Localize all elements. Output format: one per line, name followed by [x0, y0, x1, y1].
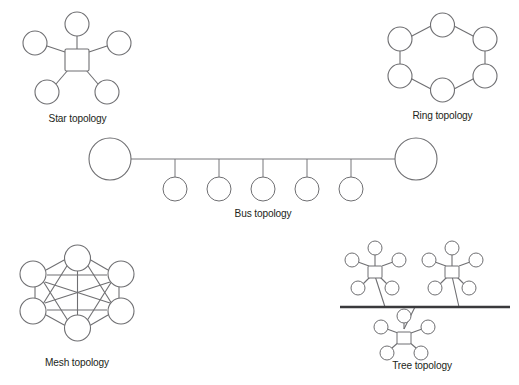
ring-node-top [431, 13, 455, 37]
bus-drop-links [175, 159, 351, 178]
tree-leaf [345, 253, 359, 267]
star-leaf-bottom-right [95, 80, 119, 104]
tree-leaf [445, 241, 459, 255]
star-leaf-bottom-left [35, 80, 59, 104]
mesh-node-top [65, 245, 91, 271]
tree-cluster-upper-right [422, 241, 483, 295]
ring-node-bottom [431, 78, 455, 102]
tree-leaf [385, 281, 399, 295]
tree-leaf [428, 281, 442, 295]
top-edge-artifact [0, 0, 120, 6]
ring-node-lower-left [388, 64, 412, 88]
bus-topology-caption: Bus topology [102, 207, 424, 219]
ring-topology-caption: Ring topology [380, 109, 504, 121]
ring-topology-diagram [375, 12, 510, 107]
bus-node [251, 177, 275, 201]
tree-topology-diagram [332, 240, 512, 355]
star-leaf-left [23, 31, 47, 55]
tree-hub [397, 332, 411, 344]
mesh-node-lower-left [20, 298, 46, 324]
mesh-node-lower-right [108, 298, 134, 324]
ring-node-lower-right [473, 64, 497, 88]
bus-terminator-right [395, 138, 437, 180]
bus-node [295, 177, 319, 201]
star-hub-node [65, 49, 89, 71]
bus-node [339, 177, 363, 201]
tree-leaf [421, 320, 435, 334]
tree-leaf [414, 346, 428, 360]
star-leaf-right [107, 31, 131, 55]
tree-leaf [392, 253, 406, 267]
tree-hub [368, 266, 382, 278]
mesh-topology-caption: Mesh topology [17, 356, 137, 368]
mesh-topology-diagram [12, 240, 142, 352]
mesh-node-bottom [65, 315, 91, 341]
tree-hub [445, 266, 459, 278]
star-leaf-top [65, 12, 89, 36]
bus-topology-diagram [88, 142, 438, 204]
tree-leaf [374, 320, 388, 334]
tree-leaf [380, 346, 394, 360]
ring-node-upper-left [388, 27, 412, 51]
tree-topology-caption: Tree topology [339, 359, 505, 371]
tree-cluster-upper-left [345, 241, 406, 295]
star-topology-caption: Star topology [15, 112, 139, 124]
tree-leaf [422, 253, 436, 267]
star-topology-diagram [10, 8, 145, 113]
ring-node-upper-right [473, 27, 497, 51]
mesh-node-upper-left [20, 261, 46, 287]
network-topology-figure: Star topology Ring topology [0, 0, 519, 385]
tree-leaf [462, 281, 476, 295]
mesh-node-upper-right [108, 261, 134, 287]
tree-cluster-lower-center [374, 309, 435, 360]
bus-terminator-left [89, 138, 131, 180]
bus-node [207, 177, 231, 201]
tree-leaf [469, 253, 483, 267]
tree-leaf [351, 281, 365, 295]
tree-leaf [397, 309, 411, 323]
tree-leaf [368, 241, 382, 255]
bus-node [163, 177, 187, 201]
